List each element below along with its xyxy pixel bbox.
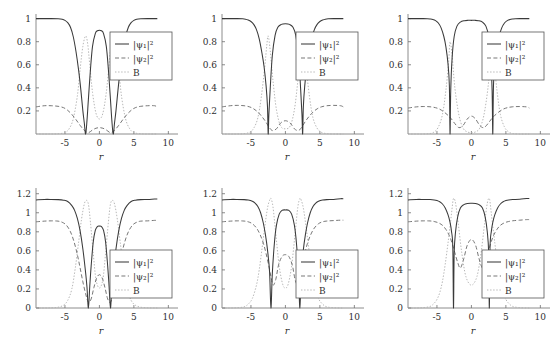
legend: |ψ₁|²|ψ₂|²B	[482, 32, 544, 80]
y-tick-label: 0.8	[203, 227, 218, 237]
x-tick-label: 5	[503, 312, 509, 322]
y-tick-label: 0.2	[203, 284, 217, 294]
legend-item-psi1-label: |ψ₁|²	[505, 258, 526, 269]
x-tick-label: 5	[317, 312, 323, 322]
legend: |ψ₁|²|ψ₂|²B	[482, 250, 544, 298]
y-tick-label: 0	[397, 303, 403, 313]
y-tick-label: 0.8	[389, 37, 404, 47]
legend-item-psi2-label: |ψ₂|²	[319, 272, 340, 283]
y-tick-label: 0.8	[389, 227, 404, 237]
y-tick-label: 1	[397, 208, 403, 218]
y-tick-label: 0.8	[203, 37, 218, 47]
legend: |ψ₁|²|ψ₂|²B	[296, 250, 358, 298]
x-tick-label: 10	[535, 138, 547, 148]
x-tick-label: 0	[97, 312, 103, 322]
legend-item-B-label: B	[133, 286, 140, 296]
x-tick-label: 10	[535, 312, 547, 322]
y-tick-label: 1.2	[389, 189, 403, 199]
x-axis-title: r	[471, 325, 477, 336]
curve-psi2	[408, 107, 529, 128]
x-axis-title: r	[99, 151, 105, 162]
y-tick-label: 0.6	[389, 246, 404, 256]
panel-bottom-right: 00.20.40.60.811.2-50510r|ψ₁|²|ψ₂|²B	[372, 174, 558, 347]
y-tick-label: 0.8	[17, 227, 32, 237]
panel-top-middle: 0.20.40.60.81-50510r|ψ₁|²|ψ₂|²B	[186, 0, 372, 174]
legend-item-B-label: B	[505, 286, 512, 296]
y-tick-label: 0	[25, 303, 31, 313]
y-tick-label: 0.6	[203, 246, 218, 256]
y-tick-label: 0.8	[17, 37, 32, 47]
legend-item-B-label: B	[505, 68, 512, 78]
panel-bottom-middle: 00.20.40.60.811.2-50510r|ψ₁|²|ψ₂|²B	[186, 174, 372, 347]
x-tick-label: 5	[317, 138, 323, 148]
y-tick-label: 1	[25, 208, 31, 218]
x-tick-label: -5	[61, 312, 70, 322]
x-tick-label: -5	[247, 138, 256, 148]
x-tick-label: 0	[469, 312, 475, 322]
x-tick-label: -5	[433, 312, 442, 322]
legend-item-psi2-label: |ψ₂|²	[319, 54, 340, 65]
legend: |ψ₁|²|ψ₂|²B	[110, 250, 172, 298]
y-tick-label: 0.4	[389, 83, 404, 93]
y-tick-label: 0.2	[389, 106, 403, 116]
legend: |ψ₁|²|ψ₂|²B	[110, 32, 172, 80]
x-axis-title: r	[285, 151, 291, 162]
y-tick-label: 1.2	[17, 189, 31, 199]
y-tick-label: 0.4	[17, 83, 32, 93]
x-tick-label: 0	[283, 138, 289, 148]
x-axis-title: r	[285, 325, 291, 336]
legend-item-psi2-label: |ψ₂|²	[133, 272, 154, 283]
y-tick-label: 0.4	[203, 265, 218, 275]
x-tick-label: -5	[433, 138, 442, 148]
y-tick-label: 0.6	[203, 60, 218, 70]
x-axis-title: r	[99, 325, 105, 336]
legend-item-psi2-label: |ψ₂|²	[505, 272, 526, 283]
x-tick-label: 0	[97, 138, 103, 148]
y-tick-label: 0.2	[17, 284, 31, 294]
y-tick-label: 0	[211, 303, 217, 313]
y-tick-label: 0.2	[389, 284, 403, 294]
panel-top-right: 0.20.40.60.81-50510r|ψ₁|²|ψ₂|²B	[372, 0, 558, 174]
x-tick-label: 10	[349, 138, 361, 148]
x-tick-label: 0	[283, 312, 289, 322]
y-tick-label: 0.4	[203, 83, 218, 93]
y-tick-label: 1	[211, 14, 217, 24]
panel-top-left: 0.20.40.60.81-50510r|ψ₁|²|ψ₂|²B	[0, 0, 186, 174]
y-tick-label: 1	[211, 208, 217, 218]
y-tick-label: 1.2	[203, 189, 217, 199]
legend: |ψ₁|²|ψ₂|²B	[296, 32, 358, 80]
legend-item-B-label: B	[319, 286, 326, 296]
legend-item-psi1-label: |ψ₁|²	[319, 258, 340, 269]
y-tick-label: 0.6	[17, 246, 32, 256]
x-tick-label: 10	[163, 138, 175, 148]
x-tick-label: 5	[131, 312, 137, 322]
y-tick-label: 0.2	[203, 106, 217, 116]
curve-psi2	[36, 106, 157, 133]
x-axis-title: r	[471, 151, 477, 162]
x-tick-label: 5	[131, 138, 137, 148]
legend-item-B-label: B	[133, 68, 140, 78]
x-tick-label: 10	[349, 312, 361, 322]
curve-psi2	[222, 105, 343, 130]
legend-item-psi1-label: |ψ₁|²	[319, 40, 340, 51]
x-tick-label: 0	[469, 138, 475, 148]
y-tick-label: 0.2	[17, 106, 31, 116]
x-tick-label: -5	[247, 312, 256, 322]
legend-item-psi2-label: |ψ₂|²	[133, 54, 154, 65]
legend-item-psi1-label: |ψ₁|²	[505, 40, 526, 51]
y-tick-label: 0.4	[389, 265, 404, 275]
y-tick-label: 0.6	[389, 60, 404, 70]
legend-item-B-label: B	[319, 68, 326, 78]
x-tick-label: -5	[61, 138, 70, 148]
legend-item-psi2-label: |ψ₂|²	[505, 54, 526, 65]
y-tick-label: 0.4	[17, 265, 32, 275]
panel-bottom-left: 00.20.40.60.811.2-50510r|ψ₁|²|ψ₂|²B	[0, 174, 186, 347]
legend-item-psi1-label: |ψ₁|²	[133, 40, 154, 51]
legend-item-psi1-label: |ψ₁|²	[133, 258, 154, 269]
figure-grid: 0.20.40.60.81-50510r|ψ₁|²|ψ₂|²B0.20.40.6…	[0, 0, 558, 347]
x-tick-label: 10	[163, 312, 175, 322]
x-tick-label: 5	[503, 138, 509, 148]
y-tick-label: 1	[25, 14, 31, 24]
y-tick-label: 1	[397, 14, 403, 24]
y-tick-label: 0.6	[17, 60, 32, 70]
